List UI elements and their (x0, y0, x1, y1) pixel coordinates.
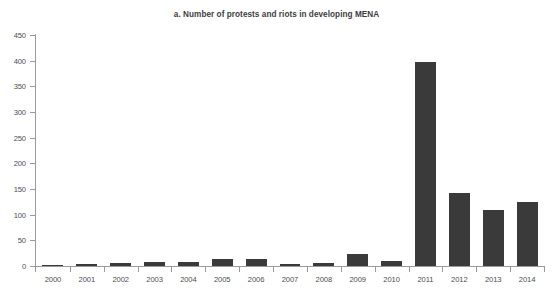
x-axis-label: 2000 (36, 275, 70, 284)
x-axis-tick (239, 267, 240, 272)
x-axis-tick (510, 267, 511, 272)
bar (76, 264, 97, 266)
x-axis-tick (138, 267, 139, 272)
x-axis-label: 2014 (510, 275, 544, 284)
x-axis-label: 2010 (375, 275, 409, 284)
y-axis-label: 250 (0, 134, 26, 143)
x-axis-label: 2005 (205, 275, 239, 284)
x-axis-tick (104, 267, 105, 272)
chart-title: a. Number of protests and riots in devel… (0, 10, 553, 19)
y-axis-label: 450 (0, 31, 26, 40)
x-axis-label: 2007 (273, 275, 307, 284)
y-axis-label: 100 (0, 211, 26, 220)
x-axis-tick (35, 267, 36, 272)
x-axis-tick (273, 267, 274, 272)
x-axis-tick (476, 267, 477, 272)
bar (347, 254, 368, 266)
y-axis-label: 350 (0, 82, 26, 91)
bar (42, 265, 63, 266)
bar (110, 263, 131, 266)
y-axis-label: 150 (0, 185, 26, 194)
x-axis-label: 2002 (104, 275, 138, 284)
x-axis-tick (442, 267, 443, 272)
y-axis-label: 0 (0, 262, 26, 271)
bar (381, 261, 402, 266)
y-axis-label: 400 (0, 57, 26, 66)
x-axis-tick (70, 267, 71, 272)
x-axis-label: 2011 (409, 275, 443, 284)
x-axis-label: 2004 (171, 275, 205, 284)
x-axis-label: 2009 (341, 275, 375, 284)
x-axis-label: 2008 (307, 275, 341, 284)
x-axis-label: 2013 (476, 275, 510, 284)
bar (212, 259, 233, 266)
x-axis-label: 2003 (138, 275, 172, 284)
bar (144, 262, 165, 266)
x-axis-label: 2001 (70, 275, 104, 284)
x-axis-tick (205, 267, 206, 272)
bar (449, 193, 470, 266)
bar (280, 264, 301, 266)
y-axis-label: 50 (0, 236, 26, 245)
x-axis-label: 2012 (442, 275, 476, 284)
bar-series (36, 35, 544, 266)
x-axis-tick (544, 267, 545, 272)
x-axis-tick (341, 267, 342, 272)
bar (246, 259, 267, 266)
x-axis-label: 2006 (239, 275, 273, 284)
x-axis-tick (171, 267, 172, 272)
bar (178, 262, 199, 266)
x-axis-tick (307, 267, 308, 272)
y-axis-label: 200 (0, 159, 26, 168)
x-axis-tick (375, 267, 376, 272)
x-axis-tick (409, 267, 410, 272)
y-axis-label: 300 (0, 108, 26, 117)
chart-figure: a. Number of protests and riots in devel… (0, 0, 553, 297)
bar (415, 62, 436, 266)
bar (517, 202, 538, 266)
bar (313, 263, 334, 266)
bar (483, 210, 504, 266)
x-axis-line (35, 266, 545, 267)
